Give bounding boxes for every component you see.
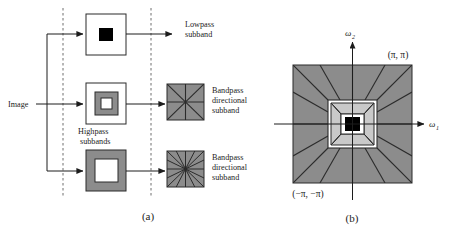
output-label-lowpass: Lowpass subband	[185, 20, 214, 39]
highpass-subbands-label: Highpass subbands	[78, 127, 110, 146]
output-label-directional-1: Bandpass directional subband	[212, 86, 248, 115]
highpass-subbands-label-line1: Highpass	[78, 127, 108, 136]
directional-box-16	[167, 151, 204, 187]
panel-a-caption: (a)	[142, 210, 155, 223]
corner-label-top-right: (π, π)	[388, 50, 409, 61]
axis-omega1-label-sub: 1	[436, 125, 439, 131]
output-label-directional-2-line3: subband	[212, 173, 239, 182]
axis-omega1-label-text: ω	[429, 119, 435, 129]
contourlet-figure: Image	[0, 0, 451, 236]
output-label-directional-1-line2: directional	[212, 96, 248, 105]
corner-label-bottom-left: (−π, −π)	[292, 189, 323, 200]
axis-omega2-label: ω 2	[345, 28, 355, 40]
panel-b-caption: (b)	[346, 212, 359, 225]
output-label-lowpass-line2: subband	[185, 30, 212, 39]
directional-box-8	[167, 84, 204, 120]
lowpass-subband-box	[86, 14, 126, 55]
output-label-lowpass-line1: Lowpass	[185, 20, 214, 29]
output-label-directional-1-line1: Bandpass	[212, 86, 243, 95]
output-label-directional-2-line2: directional	[212, 163, 248, 172]
axis-omega2-label-text: ω	[345, 28, 351, 38]
output-label-directional-1-line3: subband	[212, 106, 239, 115]
output-label-directional-2-line1: Bandpass	[212, 153, 243, 162]
highpass-subband-box-level1	[86, 83, 126, 124]
figure-root: Image	[0, 0, 451, 236]
highpass-subband-box-level2	[86, 150, 126, 191]
lowpass-center-square	[99, 28, 113, 41]
axis-omega1-label: ω 1	[429, 119, 439, 131]
highpass-subbands-label-line2: subbands	[80, 137, 110, 146]
output-label-directional-2: Bandpass directional subband	[212, 153, 248, 182]
panel-b: ω 1 ω 2 (π, π) (−π, −π) (b)	[274, 28, 439, 225]
input-label: Image	[8, 100, 29, 109]
panel-a: Image	[8, 8, 248, 223]
axis-omega2-label-sub: 2	[352, 34, 355, 40]
